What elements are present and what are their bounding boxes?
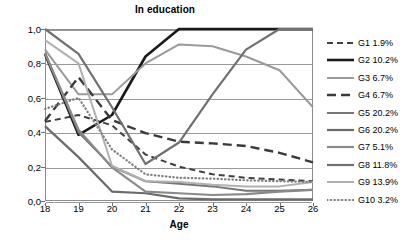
legend-swatch	[327, 55, 354, 65]
legend-label: G7 5.1%	[358, 142, 393, 152]
x-axis-tick-mark	[313, 203, 314, 206]
legend-label: G5 20.2%	[358, 108, 398, 118]
legend-label: G6 20.2%	[358, 125, 398, 135]
chart-container: In education 0,00,20,40,60,81,0 18192021…	[0, 0, 415, 250]
legend-item[interactable]: G9 13.9%	[327, 175, 398, 189]
legend-swatch	[327, 177, 354, 187]
legend-swatch	[327, 142, 354, 152]
y-axis-tick-label: 0,2	[1, 161, 41, 172]
x-axis-tick-mark	[246, 203, 247, 206]
y-axis-tick-label: 0,6	[1, 92, 41, 103]
x-axis-tick-mark	[79, 203, 80, 206]
plot-area	[45, 29, 313, 201]
series-line	[45, 53, 313, 191]
y-axis-tick-label: 0,8	[1, 58, 41, 69]
legend-label: G3 6.7%	[358, 73, 393, 83]
legend-swatch	[327, 38, 354, 48]
legend-swatch	[327, 90, 354, 100]
series-line	[45, 53, 313, 195]
legend-label: G4 6.7%	[358, 90, 393, 100]
x-axis-tick-mark	[213, 203, 214, 206]
legend-item[interactable]: G3 6.7%	[327, 71, 393, 85]
legend-swatch	[327, 195, 354, 205]
legend-label: G1 1.9%	[358, 38, 393, 48]
x-axis-tick-mark	[179, 203, 180, 206]
legend-label: G8 11.8%	[358, 160, 397, 170]
series-line	[45, 44, 313, 107]
y-axis-tick-mark	[41, 201, 45, 202]
legend-label: G10 3.2%	[358, 195, 398, 205]
x-axis-tick-mark	[112, 203, 113, 206]
legend-item[interactable]: G5 20.2%	[327, 106, 398, 120]
legend-swatch	[327, 73, 354, 83]
series-line	[45, 115, 313, 181]
legend-swatch	[327, 108, 354, 118]
series-lines	[45, 29, 313, 201]
y-axis-tick-label: 1,0	[1, 24, 41, 35]
legend-item[interactable]: G6 20.2%	[327, 123, 398, 137]
x-axis-title: Age	[45, 219, 313, 230]
series-line	[45, 29, 313, 164]
x-axis-tick-mark	[45, 203, 46, 206]
legend-label: G2 10.2%	[358, 55, 398, 65]
legend-swatch	[327, 160, 354, 170]
x-axis: 181920212223242526	[45, 203, 313, 219]
y-axis-tick-label: 0,4	[1, 127, 41, 138]
legend-item[interactable]: G10 3.2%	[327, 193, 398, 207]
legend-item[interactable]: G4 6.7%	[327, 88, 393, 102]
series-line	[45, 77, 313, 162]
legend-item[interactable]: G1 1.9%	[327, 36, 393, 50]
x-axis-tick-mark	[146, 203, 147, 206]
legend-swatch	[327, 125, 354, 135]
legend-item[interactable]: G8 11.8%	[327, 158, 397, 172]
x-axis-tick-mark	[280, 203, 281, 206]
y-axis: 0,00,20,40,60,81,0	[0, 29, 41, 201]
chart-title: In education	[0, 4, 330, 15]
legend-item[interactable]: G2 10.2%	[327, 53, 398, 67]
legend-item[interactable]: G7 5.1%	[327, 140, 393, 154]
legend: G1 1.9%G2 10.2%G3 6.7%G4 6.7%G5 20.2%G6 …	[327, 36, 415, 212]
legend-label: G9 13.9%	[358, 177, 398, 187]
